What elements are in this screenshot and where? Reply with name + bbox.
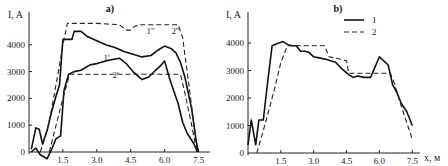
panel-a-x-tick-label: 3.0 (91, 155, 103, 165)
panel-b-y-tick-label: 1000 (226, 121, 245, 131)
panel-b-x-tick-label: 4.5 (341, 156, 353, 166)
panel-a-series-2p (49, 74, 196, 152)
legend-label-1: 1 (372, 15, 377, 25)
panel-b-series (248, 42, 412, 153)
panel-a-y-tick-label: 1000 (7, 120, 26, 130)
panel-a-y-axis-title: I, A (8, 9, 24, 20)
series-annotation-label: 2' (113, 70, 120, 80)
panel-a-x-tick-label: 7.5 (193, 155, 205, 165)
panel-b: b) I, A x, м 1.53.04.56.07.5010002000300… (226, 3, 441, 166)
panel-b-y-tick-label: 4000 (226, 38, 245, 48)
series-annotation-label: 1'' (147, 26, 155, 36)
panel-a-series (31, 23, 198, 158)
panel-b-x-tick-label: 7.5 (407, 156, 419, 166)
panel-a-x-tick-label: 4.5 (125, 155, 137, 165)
legend-label-2: 2 (372, 27, 377, 37)
series-annotation-label: 2'' (171, 26, 179, 36)
panel-a-series-2pp (40, 23, 197, 152)
panel-a-axes: 1.53.04.56.07.501000200030004000 (7, 12, 210, 165)
panel-a: a) I, A 1.53.04.56.07.501000200030004000… (7, 3, 210, 165)
panel-b-title: b) (334, 3, 343, 15)
panel-b-legend: 12 (344, 15, 377, 37)
panel-b-y-tick-label: 2000 (226, 93, 245, 103)
panel-b-y-tick-label: 3000 (226, 66, 245, 76)
panel-a-y-tick-label: 2000 (7, 93, 26, 103)
chart-canvas: a) I, A 1.53.04.56.07.501000200030004000… (0, 0, 448, 166)
panel-a-x-tick-label: 1.5 (57, 155, 69, 165)
panel-a-y-tick-label: 0 (21, 147, 26, 157)
panel-a-y-tick-label: 4000 (7, 40, 26, 50)
panel-b-x-tick-label: 3.0 (308, 156, 320, 166)
panel-a-y-tick-label: 3000 (7, 67, 26, 77)
panel-b-y-axis-title: I, A (226, 9, 242, 20)
panel-b-y-tick-label: 0 (240, 148, 245, 158)
panel-a-x-tick-label: 6.0 (159, 155, 171, 165)
panel-b-x-axis-title: x, м (424, 152, 441, 163)
panel-b-x-tick-label: 1.5 (275, 156, 287, 166)
series-annotation-label: 1' (104, 53, 111, 63)
panel-a-title: a) (106, 3, 114, 15)
panel-b-x-tick-label: 6.0 (374, 156, 386, 166)
